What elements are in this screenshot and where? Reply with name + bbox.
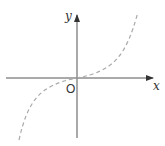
function-graph: y O x (0, 0, 165, 146)
y-axis-label: y (64, 9, 72, 23)
origin-label: O (66, 82, 75, 96)
x-axis-label: x (153, 79, 160, 93)
cubic-curve (19, 12, 138, 140)
